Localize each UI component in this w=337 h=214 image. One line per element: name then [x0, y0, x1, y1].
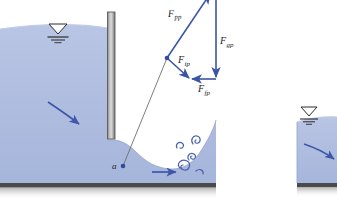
force-pressure-label: Fpp: [167, 8, 182, 22]
force-gravity-label: Fgp: [219, 35, 234, 49]
streamline-from-point-a: [123, 58, 167, 166]
force-friction-label: Ffp: [197, 83, 210, 97]
channel-bed-shadow: [0, 188, 216, 200]
channel-bed: [0, 183, 216, 188]
sluice-gate-plate: [108, 12, 116, 139]
figure-canvas: a Fpp Fgp Fip Ffp: [0, 0, 337, 214]
point-a-label: a: [112, 161, 117, 171]
force-polygon-vertex: [165, 56, 170, 61]
channel-bed-shadow: [297, 187, 337, 197]
point-a-marker: [121, 164, 126, 169]
channel-bed: [297, 183, 337, 187]
diagram-svg: a Fpp Fgp Fip Ffp: [0, 0, 337, 214]
force-inertia-label: Fip: [177, 54, 190, 68]
